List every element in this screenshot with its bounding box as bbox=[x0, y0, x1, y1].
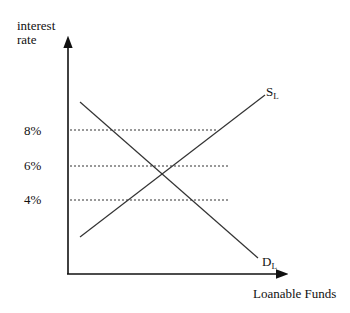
y-axis-label-line1: interest bbox=[17, 19, 55, 33]
demand-label-main: D bbox=[262, 254, 271, 269]
tick-4-percent: 4% bbox=[24, 193, 41, 207]
demand-curve bbox=[80, 102, 258, 258]
supply-label-sub: L bbox=[273, 91, 279, 101]
demand-label-sub: L bbox=[271, 261, 277, 271]
tick-8-percent: 8% bbox=[24, 124, 41, 138]
loanable-funds-diagram bbox=[0, 0, 350, 313]
supply-label: SL bbox=[266, 85, 279, 100]
demand-label: DL bbox=[262, 255, 277, 270]
y-axis-label-line2: rate bbox=[17, 33, 36, 47]
tick-6-percent: 6% bbox=[24, 159, 41, 173]
x-axis-label: Loanable Funds bbox=[253, 287, 336, 301]
